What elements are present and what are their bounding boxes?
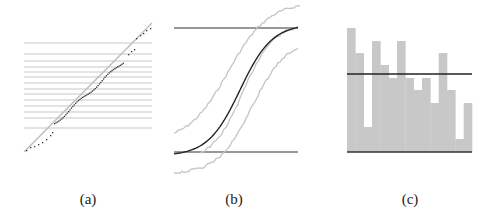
reference-diagonal: [24, 23, 152, 152]
histogram-bar: [447, 90, 456, 152]
histogram-bar: [430, 103, 439, 152]
histogram-bar: [455, 139, 464, 152]
histogram-bar: [364, 127, 373, 152]
sample-points: [26, 28, 151, 151]
histogram-bar: [464, 103, 473, 152]
histogram-bar: [422, 78, 431, 152]
panel-c: [347, 28, 472, 152]
panel-b: [174, 6, 300, 174]
histogram-bars: [347, 28, 472, 152]
histogram-bar: [405, 78, 414, 152]
histogram-bar: [389, 78, 398, 152]
upper-envelope-curve: [174, 6, 300, 134]
caption-b: (b): [225, 191, 243, 208]
histogram-bar: [380, 65, 389, 152]
lower-envelope-curve: [174, 49, 298, 174]
histogram-bar: [439, 53, 448, 152]
histogram-bar: [355, 53, 364, 152]
horizontal-grid-lines: [24, 43, 152, 128]
histogram-bar: [347, 28, 356, 152]
histogram-bar: [372, 41, 381, 152]
caption-a: (a): [80, 191, 97, 208]
histogram-bar: [414, 90, 423, 152]
panel-a: [24, 23, 152, 152]
histogram-bar: [397, 41, 406, 152]
caption-c: (c): [402, 191, 419, 208]
figure-canvas: [0, 0, 496, 217]
